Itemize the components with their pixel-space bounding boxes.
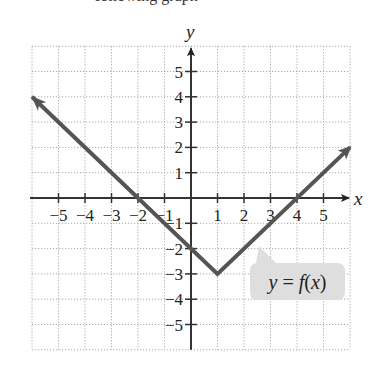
- y-tick-label: 1: [175, 164, 184, 183]
- y-tick-label: −5: [165, 316, 183, 335]
- x-tick-label: 5: [319, 206, 328, 225]
- y-tick-label: −2: [165, 240, 183, 259]
- y-tick-label: 5: [175, 63, 184, 82]
- y-tick-label: 3: [175, 113, 184, 132]
- callout-label: y = f(x): [267, 271, 327, 294]
- x-tick-label: −4: [76, 206, 95, 225]
- y-tick-label: 2: [175, 138, 184, 157]
- x-tick-label: −5: [49, 206, 67, 225]
- y-tick-label: −4: [165, 290, 184, 309]
- x-tick-label: 1: [213, 206, 222, 225]
- x-tick-label: 2: [240, 206, 249, 225]
- y-tick-label: −3: [165, 265, 183, 284]
- axes: [30, 48, 349, 350]
- y-tick-label: 4: [175, 88, 184, 107]
- function-graph: −5−4−3−2−112345−5−4−3−2−112345 y = f(x) …: [0, 0, 387, 370]
- x-tick-label: 4: [293, 206, 302, 225]
- y-axis-label: y: [184, 21, 195, 42]
- x-axis-label: x: [353, 188, 363, 209]
- x-tick-label: −3: [102, 206, 120, 225]
- x-tick-label: −2: [129, 206, 147, 225]
